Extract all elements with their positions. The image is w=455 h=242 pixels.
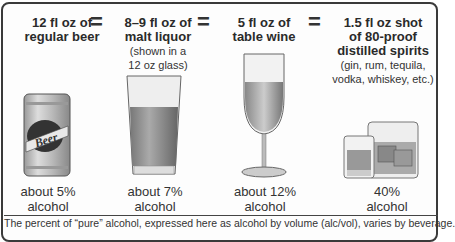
beer-can-icon: Beer [22,92,72,178]
malt-pct-value: about 7% [125,184,185,199]
spirits-note-2: vodka, whiskey, etc.) [327,73,439,86]
spirits-pct-label: alcohol [357,199,417,214]
equals-sign-1: = [90,12,103,32]
malt-alcohol-pct: about 7% alcohol [125,184,185,214]
divider [4,215,438,216]
wine-title-1: 5 fl oz of [226,16,302,30]
spirits-title-2: of 80-proof [327,30,439,44]
spirits-note-1: (gin, rum, tequila, [327,59,439,72]
wine-alcohol-pct: about 12% alcohol [230,184,300,214]
malt-title-2: malt liquor [115,30,201,44]
malt-title-1: 8–9 fl oz of [115,16,201,30]
equals-sign-2: = [197,12,210,32]
spirits-title-1: 1.5 fl oz shot [327,16,439,30]
beer-pct-label: alcohol [18,199,78,214]
footnote: The percent of “pure” alcohol, expressed… [4,217,455,229]
malt-note-1: (shown in a [115,45,201,58]
wine-pct-label: alcohol [230,199,300,214]
wine-heading: 5 fl oz of table wine [226,16,302,44]
wine-glass-icon [240,52,288,180]
spirits-heading: 1.5 fl oz shot of 80-proof distilled spi… [327,16,439,86]
beer-pct-value: about 5% [18,184,78,199]
wine-pct-value: about 12% [230,184,300,199]
spirits-alcohol-pct: 40% alcohol [357,184,417,214]
malt-heading: 8–9 fl oz of malt liquor (shown in a 12 … [115,16,201,72]
shot-glass-icon [342,120,422,180]
malt-note-2: 12 oz glass) [115,59,201,72]
wine-title-2: table wine [226,30,302,44]
beer-alcohol-pct: about 5% alcohol [18,184,78,214]
malt-pct-label: alcohol [125,199,185,214]
pint-glass-icon [125,74,183,178]
spirits-pct-value: 40% [357,184,417,199]
spirits-title-3: distilled spirits [327,44,439,58]
equals-sign-3: = [308,12,321,32]
